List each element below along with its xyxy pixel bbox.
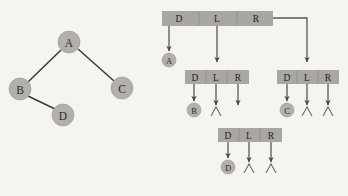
record-box-b-cell-left-label: L [213, 73, 219, 83]
tree-edge-a-b [28, 50, 61, 82]
figure-canvas: A B C D D L R [0, 0, 348, 196]
null-icon-d-right [266, 164, 276, 173]
tree-edges [28, 49, 114, 109]
record-box-d-cell-data-label: D [225, 131, 232, 141]
tree-node-b[interactable]: B [9, 78, 31, 100]
record-box-c-cell-left-label: L [304, 73, 310, 83]
null-icon-c-left [302, 107, 312, 116]
tree-node-a-label: A [65, 37, 74, 49]
null-icon-c-right [323, 107, 333, 116]
data-node-a[interactable]: A [162, 53, 176, 67]
null-icon-d-left [244, 164, 254, 173]
tree-node-c-label: C [118, 83, 126, 95]
tree-node-a[interactable]: A [58, 31, 80, 53]
record-box-root-cell-data-label: D [176, 14, 183, 24]
record-box-d-cell-left-label: L [246, 131, 252, 141]
null-icon-b-left [211, 107, 221, 116]
data-node-b-label: B [191, 106, 197, 116]
data-node-c[interactable]: C [280, 103, 294, 117]
record-box-b-cell-data-label: D [192, 73, 199, 83]
tree-node-c[interactable]: C [111, 77, 133, 99]
record-box-c[interactable]: D L R [277, 70, 339, 84]
tree-node-b-label: B [16, 84, 24, 96]
data-node-a-label: A [166, 56, 173, 66]
linked-representation-diagram: D L R A D L R [162, 11, 339, 174]
record-box-b-cell-right-label: R [235, 73, 242, 83]
data-node-b[interactable]: B [187, 103, 201, 117]
tree-node-d[interactable]: D [52, 104, 74, 126]
record-box-c-cell-data-label: D [284, 73, 291, 83]
record-box-d[interactable]: D L R [218, 128, 282, 142]
record-box-c-cell-right-label: R [325, 73, 332, 83]
record-box-root-cell-left-label: L [214, 14, 220, 24]
record-box-d-cell-right-label: R [268, 131, 275, 141]
figure-binary-tree-linked-representation: A B C D D L R [0, 0, 348, 196]
record-box-root[interactable]: D L R [162, 11, 273, 26]
record-box-b[interactable]: D L R [185, 70, 249, 84]
data-node-c-label: C [284, 106, 290, 116]
tree-diagram: A B C D [9, 31, 133, 126]
record-box-root-cell-right-label: R [253, 14, 260, 24]
data-node-d[interactable]: D [221, 160, 235, 174]
data-node-d-label: D [225, 163, 231, 173]
pointer-root-right-to-box-c [273, 18, 307, 62]
tree-node-d-label: D [59, 110, 67, 122]
tree-edge-b-d [28, 96, 55, 109]
tree-edge-a-c [78, 49, 114, 81]
